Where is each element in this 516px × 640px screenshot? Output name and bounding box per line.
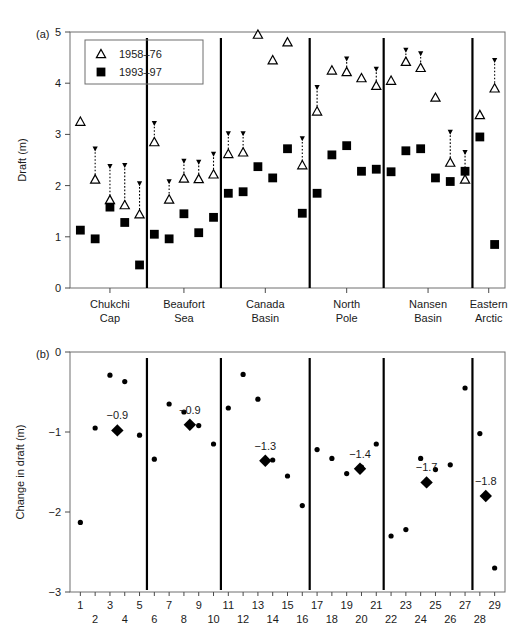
panel-b-ytick-label: 0 — [55, 346, 61, 358]
panel-b-data-point — [477, 431, 482, 436]
panel-a-marker-1958-76 — [312, 107, 321, 115]
panel-a-marker-1993-97 — [461, 167, 470, 176]
panel-a-marker-1993-97 — [135, 261, 144, 270]
panel-a-marker-1958-76 — [357, 73, 366, 81]
panel-a-region-label: Eastern — [470, 298, 508, 310]
panel-a-whisker-cap — [314, 85, 319, 90]
panel-a-marker-1993-97 — [387, 167, 396, 176]
panel-b-data-point — [300, 503, 305, 508]
panel-b-data-point — [448, 462, 453, 467]
panel-b-ylabel: Change in draft (m) — [14, 425, 26, 520]
panel-a-marker-1993-97 — [357, 167, 366, 176]
panel-b-xtick-label: 5 — [136, 599, 142, 611]
panel-a-marker-1958-76 — [416, 63, 425, 71]
panel-a-marker-1958-76 — [372, 81, 381, 89]
panel-a-region-label: Pole — [336, 312, 358, 324]
panel-a-whisker-cap — [196, 160, 201, 165]
panel-a-marker-1958-76 — [283, 38, 292, 46]
panel-b-xtick-label: 18 — [326, 613, 338, 625]
panel-a-marker-1958-76 — [460, 175, 469, 183]
panel-b-xtick-label: 20 — [355, 613, 367, 625]
panel-a-marker-1993-97 — [446, 177, 455, 186]
panel-b-data-point — [418, 456, 423, 461]
panel-a-whisker-cap — [181, 159, 186, 164]
panel-a-marker-1958-76 — [120, 200, 129, 208]
panel-a-marker-1993-97 — [165, 234, 174, 243]
panel-a-marker-1993-97 — [313, 189, 322, 198]
panel-a-whisker-cap — [418, 51, 423, 56]
panel-a-marker-1958-76 — [490, 84, 499, 92]
panel-b-data-point — [241, 372, 246, 377]
panel-b-xtick-label: 23 — [400, 599, 412, 611]
panel-b-xtick-label: 2 — [92, 613, 98, 625]
panel-a-region-label: Cap — [100, 312, 120, 324]
panel-a-region-label: Canada — [246, 298, 285, 310]
panel-b-xtick-label: 22 — [385, 613, 397, 625]
panel-b-data-point — [285, 473, 290, 478]
panel-b-data-point — [344, 471, 349, 476]
figure-container: (a)012345Draft (m)ChukchiCapBeaufortSeaC… — [0, 0, 516, 640]
panel-a-marker-1993-97 — [283, 144, 292, 153]
panel-a-marker-1958-76 — [475, 110, 484, 118]
panel-a-marker-1993-97 — [254, 162, 263, 171]
panel-a-marker-1993-97 — [239, 187, 248, 196]
panel-b-region-mean-marker — [259, 455, 271, 467]
panel-a-whisker-cap — [241, 131, 246, 136]
panel-b-data-point — [314, 447, 319, 452]
panel-b-region-mean-label: −1.3 — [254, 440, 276, 452]
panel-a-marker-1958-76 — [239, 148, 248, 156]
panel-b-data-point — [196, 423, 201, 428]
panel-b-xtick-label: 7 — [166, 599, 172, 611]
panel-b-xtick-label: 1 — [77, 599, 83, 611]
panel-b-region-mean-label: −0.9 — [179, 404, 201, 416]
panel-b-xtick-label: 27 — [459, 599, 471, 611]
panel-a-marker-1958-76 — [105, 195, 114, 203]
panel-b-region-mean-label: −1.7 — [416, 461, 438, 473]
panel-a-marker-1993-97 — [298, 209, 307, 218]
panel-a-marker-1993-97 — [150, 230, 159, 239]
panel-a-marker-1993-97 — [268, 174, 277, 183]
panel-a-whisker-cap — [107, 164, 112, 169]
panel-b-xtick-label: 21 — [370, 599, 382, 611]
panel-b-ytick-label: −3 — [48, 586, 61, 598]
panel-a-whisker-cap — [226, 131, 231, 136]
panel-b-xtick-label: 19 — [341, 599, 353, 611]
panel-a-ytick-label: 3 — [55, 128, 61, 140]
panel-a-marker-1993-97 — [224, 189, 233, 198]
panel-b-xtick-label: 10 — [207, 613, 219, 625]
panel-b-region-mean-label: −0.9 — [106, 409, 128, 421]
panel-b-xtick-label: 13 — [252, 599, 264, 611]
panel-a-marker-1958-76 — [135, 210, 144, 218]
panel-b-data-point — [226, 405, 231, 410]
panel-b-xtick-label: 28 — [474, 613, 486, 625]
panel-b-data-point — [374, 441, 379, 446]
panel-a-whisker-cap — [374, 67, 379, 72]
panel-b-xtick-label: 24 — [415, 613, 427, 625]
panel-a-ytick-label: 0 — [55, 282, 61, 294]
panel-a-whisker-cap — [462, 150, 467, 155]
panel-a-marker-1958-76 — [165, 195, 174, 203]
panel-a-marker-1993-97 — [431, 174, 440, 183]
panel-b-ytick-label: −1 — [48, 426, 61, 438]
panel-b-xtick-label: 16 — [296, 613, 308, 625]
panel-a-marker-1958-76 — [179, 174, 188, 182]
panel-b-data-point — [93, 425, 98, 430]
panel-b-label: (b) — [36, 348, 49, 360]
panel-a-region-label: Chukchi — [90, 298, 130, 310]
panel-a-marker-1958-76 — [91, 175, 100, 183]
panel-b-frame — [70, 352, 505, 592]
panel-a-whisker-cap — [492, 58, 497, 63]
panel-a-marker-1993-97 — [209, 213, 218, 222]
panel-b-xtick-label: 29 — [489, 599, 501, 611]
panel-b-region-mean-marker — [480, 490, 492, 502]
panel-b-data-point — [167, 401, 172, 406]
panel-b-xtick-label: 17 — [311, 599, 323, 611]
panel-a-region-label: Basin — [414, 312, 442, 324]
panel-a-label: (a) — [36, 28, 49, 40]
panel-b-xtick-label: 14 — [267, 613, 279, 625]
panel-a-region-label: North — [333, 298, 360, 310]
panel-b-xtick-label: 4 — [122, 613, 128, 625]
panel-b-xtick-label: 6 — [151, 613, 157, 625]
panel-a-marker-1993-97 — [106, 203, 115, 212]
legend-marker-filled-square — [97, 68, 106, 77]
